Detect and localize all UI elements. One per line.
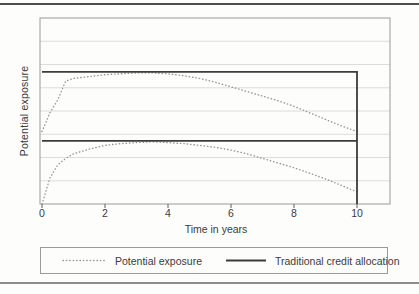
legend-label-potential-exposure: Potential exposure [115, 255, 202, 267]
bottom-rule [0, 282, 419, 284]
legend-item-traditional-credit-allocation: Traditional credit allocation [226, 255, 400, 267]
legend-item-potential-exposure: Potential exposure [62, 255, 202, 267]
x-axis-label: Time in years [185, 223, 248, 235]
x-tick-label: 2 [102, 207, 108, 219]
x-tick-label: 6 [228, 207, 234, 219]
figure: Potential exposure 0246810 Time in years… [0, 0, 419, 294]
x-tick-label: 10 [351, 207, 363, 219]
legend-label-traditional-credit-allocation: Traditional credit allocation [275, 255, 400, 267]
x-tick-label: 8 [291, 207, 297, 219]
solid-line-sample-icon [226, 258, 266, 263]
y-axis-label: Potential exposure [18, 66, 30, 157]
x-tick-label: 4 [165, 207, 171, 219]
x-tick-label: 0 [39, 207, 45, 219]
series-potential-exposure-lower-profile [42, 142, 357, 204]
series-traditional-credit-allocation-upper [42, 72, 357, 204]
series-potential-exposure-upper-profile [42, 73, 357, 132]
dotted-line-sample-icon [62, 258, 106, 263]
legend: Potential exposure Traditional credit al… [40, 247, 388, 274]
